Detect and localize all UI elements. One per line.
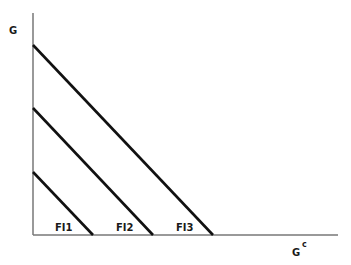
curve-label-fi1: FI1 — [55, 222, 73, 233]
x-axis-superscript: c — [302, 240, 307, 249]
indifference-diagram: G G c FI1 FI2 FI3 — [0, 0, 351, 265]
y-axis-label: G — [9, 25, 17, 36]
curve-fi3 — [33, 45, 213, 235]
x-axis-label: G — [292, 247, 300, 258]
curve-label-fi2: FI2 — [116, 222, 134, 233]
curve-fi2 — [33, 108, 153, 235]
curve-label-fi3: FI3 — [176, 222, 194, 233]
